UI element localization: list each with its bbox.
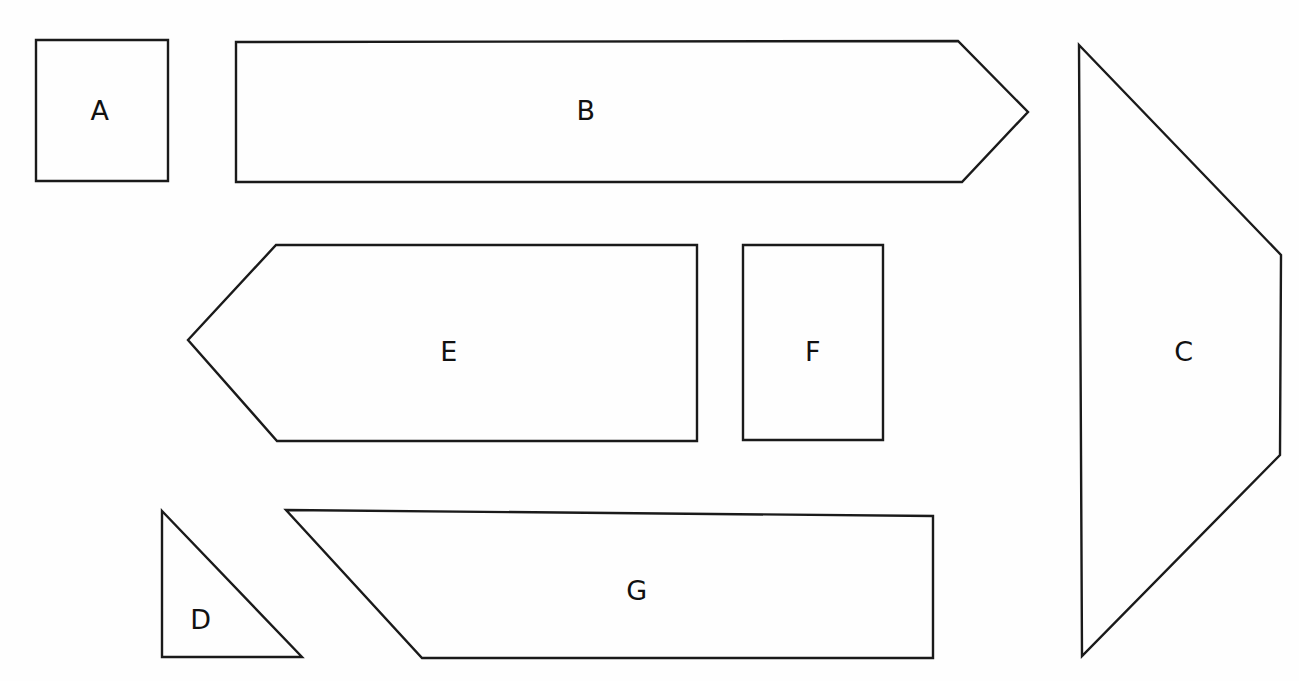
shape-e-label: E: [440, 336, 458, 367]
shape-group-c[interactable]: C: [1079, 45, 1281, 656]
shape-f-label: F: [805, 336, 821, 367]
shape-nesting-svg: A B C D E F G: [0, 0, 1299, 681]
shape-group-e[interactable]: E: [188, 245, 697, 441]
shape-a-label: A: [91, 95, 110, 126]
shape-d-outline[interactable]: [162, 511, 302, 657]
shape-g-label: G: [626, 575, 647, 606]
shape-group-a[interactable]: A: [36, 40, 168, 181]
shape-b-label: B: [576, 95, 595, 126]
shape-group-d[interactable]: D: [162, 511, 302, 657]
shape-c-label: C: [1174, 336, 1193, 367]
shape-d-label: D: [190, 604, 211, 635]
diagram-canvas: A B C D E F G: [0, 0, 1299, 681]
shape-g-outline[interactable]: [286, 510, 933, 658]
shape-group-f[interactable]: F: [743, 245, 883, 440]
shape-b-outline[interactable]: [236, 41, 1028, 182]
shape-group-b[interactable]: B: [236, 41, 1028, 182]
shape-group-g[interactable]: G: [286, 510, 933, 658]
